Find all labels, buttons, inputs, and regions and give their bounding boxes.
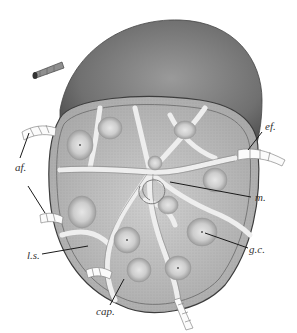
label-medulla: m. [255,192,266,203]
label-germinal-centre: g.c. [249,244,265,255]
lymph-node-illustration [0,0,297,333]
label-efferent: ef. [265,121,276,132]
label-lymph-sinus: l.s. [27,250,40,261]
label-capsule: cap. [96,306,115,317]
vessel-stub [33,62,65,79]
label-afferent: af. [15,162,26,173]
